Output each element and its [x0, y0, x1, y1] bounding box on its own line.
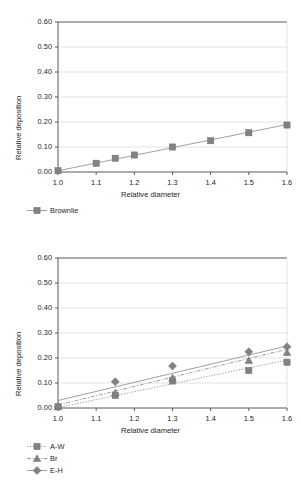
triangle-marker-icon [27, 453, 47, 464]
legend-panel-2: A-WBrE-H [27, 441, 64, 477]
y-tick-label: 0.10 [22, 378, 52, 387]
x-tick-label: 1.0 [46, 178, 70, 187]
legend-label: Brownlie [50, 205, 78, 216]
square-marker-icon [27, 205, 47, 216]
legend-label: A-W [50, 441, 64, 452]
legend-item[interactable]: E-H [27, 465, 64, 476]
x-tick-label: 1.3 [161, 414, 185, 423]
x-tick-label: 1.3 [161, 178, 185, 187]
x-tick-label: 1.5 [237, 178, 261, 187]
y-tick-label: 0.30 [22, 328, 52, 337]
y-tick-label: 0.20 [22, 353, 52, 362]
figure-two-panel-scatter: Relative deposition 0.000.100.200.300.40… [0, 0, 301, 482]
legend-item[interactable]: A-W [27, 441, 64, 452]
chart-panel-2: Relative deposition 0.000.100.200.300.40… [0, 236, 301, 482]
square-marker-icon [27, 441, 47, 452]
diamond-marker-icon [27, 465, 47, 476]
x-tick-label: 1.6 [275, 178, 299, 187]
x-tick-label: 1.4 [199, 178, 223, 187]
y-tick-label: 0.10 [22, 142, 52, 151]
y-tick-label: 0.20 [22, 117, 52, 126]
y-tick-label: 0.00 [22, 403, 52, 412]
y-tick-label: 0.40 [22, 303, 52, 312]
x-tick-label: 1.0 [46, 414, 70, 423]
y-tick-label: 0.50 [22, 278, 52, 287]
x-tick-label: 1.1 [84, 414, 108, 423]
legend-panel-1: Brownlie [27, 205, 78, 217]
y-tick-label: 0.60 [22, 253, 52, 262]
x-tick-label: 1.2 [122, 414, 146, 423]
x-tick-label: 1.2 [122, 178, 146, 187]
x-axis-label: Relative diameter [0, 190, 301, 199]
legend-label: Br [50, 453, 57, 464]
y-tick-label: 0.30 [22, 92, 52, 101]
legend-item[interactable]: Br [27, 453, 64, 464]
y-tick-label: 0.60 [22, 17, 52, 26]
legend-label: E-H [50, 465, 63, 476]
x-tick-label: 1.4 [199, 414, 223, 423]
x-axis-label: Relative diameter [0, 426, 301, 435]
y-tick-label: 0.50 [22, 42, 52, 51]
legend-item[interactable]: Brownlie [27, 205, 78, 216]
chart-panel-1: Relative deposition 0.000.100.200.300.40… [0, 0, 301, 230]
y-tick-label: 0.00 [22, 167, 52, 176]
x-tick-label: 1.1 [84, 178, 108, 187]
x-tick-label: 1.5 [237, 414, 261, 423]
x-tick-label: 1.6 [275, 414, 299, 423]
y-tick-label: 0.40 [22, 67, 52, 76]
